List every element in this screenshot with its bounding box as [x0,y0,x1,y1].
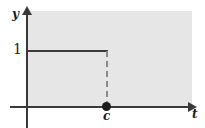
step-function-solid-segment [27,50,108,52]
step-function-figure: y t 1 c [0,0,205,128]
y-axis-line [26,12,28,128]
x-axis-line [10,106,190,108]
step-function-dashed-drop [106,51,108,107]
x-tick-label-c: c [103,110,110,123]
y-axis-arrowhead-icon [22,6,32,15]
x-axis-label: t [192,108,198,121]
y-axis-label: y [12,8,19,21]
plot-panel-background [27,11,192,107]
y-tick-label-one: 1 [13,43,22,56]
